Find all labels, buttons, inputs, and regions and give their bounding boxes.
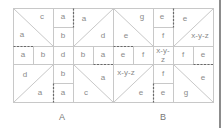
- cell-label-B-r2c7a: x-y-: [156, 46, 170, 55]
- cell-label-A-bl-d: d: [23, 70, 27, 79]
- cell-label-A-tl-a: a: [20, 30, 25, 39]
- cell-label-A-c2r3: b: [61, 69, 66, 78]
- cell-label-B-r2c5: e: [121, 50, 126, 59]
- caption-b: B: [153, 112, 173, 122]
- cell-label-B-r2c7b: z: [161, 55, 165, 64]
- cell-label-A-r2c1: b: [41, 50, 46, 59]
- cell-label-A-r2c2: d: [61, 50, 65, 59]
- cell-label-B-tr-e: e: [183, 14, 188, 23]
- cell-label-A-c2r0: a: [61, 12, 66, 21]
- cell-label-B-bl-e: e: [139, 88, 144, 97]
- cell-label-A-r2c3: b: [81, 50, 86, 59]
- cell-label-A-r2c4: a: [101, 50, 106, 59]
- cell-label-B-tl-g: g: [140, 12, 144, 21]
- block-diagram: caabadabdbadabaacgeefex-y-zefx-y-zfex-y-…: [0, 0, 223, 128]
- cell-label-B-r2c9: e: [201, 50, 206, 59]
- cell-label-B-r2c8: f: [182, 50, 185, 59]
- cell-label-A-br-a: a: [101, 73, 106, 82]
- cell-label-A-c2r1: b: [61, 31, 66, 40]
- cell-label-B-tl-e: e: [124, 31, 129, 40]
- cell-label-B-c7r4: e: [161, 88, 166, 97]
- cell-label-B-c7r1: f: [162, 31, 165, 40]
- cell-label-B-br-g: g: [184, 88, 188, 97]
- right-edge-bar: [219, 0, 221, 128]
- cell-label-B-bl-xyz: x-y-z: [117, 68, 134, 77]
- cell-label-A-tr-d: d: [101, 31, 105, 40]
- cell-label-A-tr-a: a: [82, 14, 87, 23]
- grid-figure: caabadabdbadabaacgeefex-y-zefx-y-zfex-y-…: [0, 0, 223, 128]
- cell-label-B-tr-xyz: x-y-z: [191, 31, 208, 40]
- cell-label-B-c7r0: e: [160, 12, 165, 21]
- cell-label-B-br-e: e: [201, 73, 206, 82]
- cell-label-B-c7r3: f: [162, 69, 165, 78]
- cell-label-A-r2c0: a: [21, 50, 26, 59]
- cell-label-B-r2c6: f: [142, 50, 145, 59]
- cell-label-A-br-c: c: [84, 88, 88, 97]
- cell-label-A-c2r4: a: [61, 88, 66, 97]
- caption-a: A: [52, 112, 72, 122]
- cell-label-A-bl-a: a: [38, 88, 43, 97]
- cell-label-A-tl-c: c: [40, 12, 44, 21]
- cell-labels: caabadabdbadabaacgeefex-y-zefx-y-zfex-y-…: [20, 12, 209, 97]
